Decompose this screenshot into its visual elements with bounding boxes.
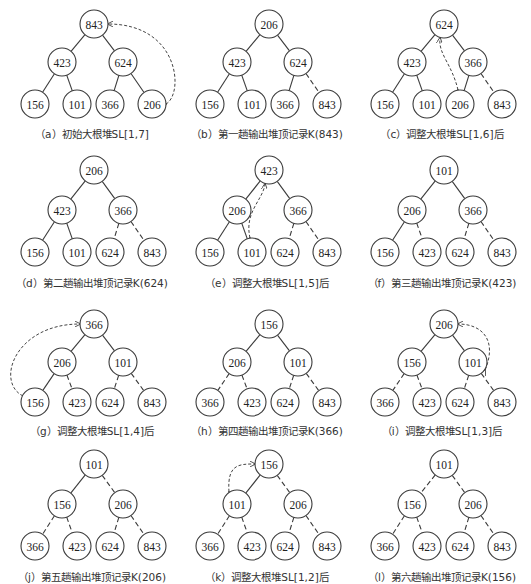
heap-node: 206 (223, 196, 251, 224)
heap-node: 101 (63, 238, 91, 266)
node-value: 624 (451, 397, 469, 409)
heap-sort-figure: 8434236241561013662062064236241561013668… (0, 0, 531, 584)
node-value: 423 (243, 541, 261, 553)
heap-node: 423 (63, 388, 91, 416)
node-value: 423 (243, 397, 261, 409)
removed-edge (306, 74, 319, 93)
heap-panel-k: 156101206366423624843 (196, 450, 341, 560)
heap-panel-h: 156206101366423624843 (196, 310, 341, 416)
heap-node: 843 (313, 238, 341, 266)
node-value: 843 (318, 397, 336, 409)
heap-node: 156 (21, 238, 49, 266)
tree-edge (246, 181, 261, 199)
removed-edge (67, 375, 72, 389)
removed-edge (131, 516, 144, 535)
tree-edge (452, 35, 464, 51)
node-value: 366 (376, 397, 394, 409)
heap-node: 423 (413, 388, 441, 416)
node-value: 843 (143, 541, 161, 553)
node-value: 423 (228, 57, 246, 69)
node-value: 624 (276, 247, 294, 259)
panel-caption: （h）第四趟输出堆顶记录K(366) (191, 423, 343, 438)
node-value: 206 (451, 99, 469, 111)
heap-node: 843 (313, 532, 341, 560)
heap-node: 624 (96, 388, 124, 416)
heap-node: 206 (48, 348, 76, 376)
removed-edge (393, 374, 404, 391)
node-value: 206 (53, 357, 71, 369)
tree-edge (421, 335, 435, 352)
node-value: 423 (68, 541, 86, 553)
tree-edge (71, 181, 86, 199)
heap-panel-g: 366206101156423624843 (11, 310, 166, 416)
heap-node: 101 (223, 490, 251, 518)
node-value: 366 (114, 205, 132, 217)
heap-node: 366 (284, 196, 312, 224)
node-value: 843 (143, 247, 161, 259)
heap-node: 366 (196, 388, 224, 416)
tree-edge (114, 75, 119, 90)
heap-node: 624 (446, 238, 474, 266)
node-value: 101 (68, 99, 86, 111)
node-value: 206 (464, 499, 482, 511)
node-value: 101 (464, 357, 482, 369)
removed-edge (242, 375, 247, 389)
panel-caption: （d）第二趟输出堆顶记录K(624) (16, 275, 168, 290)
heap-node: 624 (446, 532, 474, 560)
node-value: 156 (26, 99, 44, 111)
node-value: 206 (85, 165, 103, 177)
swap-arrow (440, 38, 458, 90)
removed-edge (417, 375, 422, 389)
node-value: 101 (289, 357, 307, 369)
tree-edge (417, 75, 423, 91)
heap-node: 101 (63, 90, 91, 118)
removed-edge (306, 222, 319, 241)
node-value: 156 (403, 499, 421, 511)
heap-node: 206 (284, 490, 312, 518)
tree-edge (393, 74, 405, 92)
node-value: 101 (435, 165, 453, 177)
heap-node: 423 (48, 48, 76, 76)
removed-edge (131, 373, 144, 390)
node-value: 156 (201, 99, 219, 111)
heap-panel-b: 206423624156101366843 (196, 10, 341, 118)
node-value: 156 (26, 397, 44, 409)
panel-caption: （i）调整大根堆SL[1,3]后 (382, 423, 502, 438)
removed-edge (464, 375, 468, 388)
tree-edge (43, 74, 55, 92)
node-value: 423 (418, 397, 436, 409)
tree-edge (277, 335, 289, 351)
node-value: 366 (376, 541, 394, 553)
heap-node: 156 (196, 238, 224, 266)
tree-edge (102, 335, 114, 351)
heap-node: 423 (48, 196, 76, 224)
heap-node: 206 (398, 196, 426, 224)
node-value: 156 (260, 319, 278, 331)
heap-node: 843 (313, 388, 341, 416)
node-value: 366 (464, 57, 482, 69)
node-value: 366 (85, 319, 103, 331)
panel-caption: （e）调整大根堆SL[1,5]后 (205, 275, 329, 290)
heap-node: 366 (459, 48, 487, 76)
heap-node: 101 (238, 238, 266, 266)
node-value: 624 (101, 247, 119, 259)
heap-node: 624 (284, 48, 312, 76)
heap-node: 101 (109, 348, 137, 376)
node-value: 366 (289, 205, 307, 217)
heap-node: 423 (413, 238, 441, 266)
tree-edge (246, 475, 261, 493)
tree-edge (452, 181, 465, 198)
removed-edge (421, 475, 436, 493)
removed-edge (277, 475, 290, 492)
node-value: 843 (143, 397, 161, 409)
node-value: 156 (376, 247, 394, 259)
node-value: 843 (318, 99, 336, 111)
heap-node: 366 (80, 310, 108, 338)
heap-node: 423 (398, 48, 426, 76)
node-value: 206 (143, 99, 161, 111)
panel-caption: （j）第五趟输出堆顶记录K(206) (18, 569, 166, 584)
heap-panel-i: 206156101366423624843 (371, 310, 516, 416)
node-value: 366 (464, 205, 482, 217)
removed-edge (131, 222, 144, 241)
node-value: 206 (260, 19, 278, 31)
